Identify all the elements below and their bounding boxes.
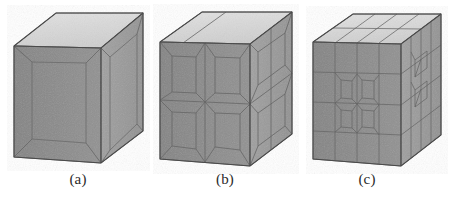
panel-caption-b: (b) (195, 171, 255, 188)
panel-caption-c: (c) (337, 171, 397, 188)
block-panel-c (313, 14, 441, 166)
block-panel-a (14, 13, 143, 163)
mesh-refinement-figure (0, 0, 455, 199)
block-panel-b (160, 12, 292, 166)
panel-caption-a: (a) (48, 171, 108, 188)
